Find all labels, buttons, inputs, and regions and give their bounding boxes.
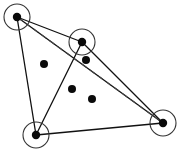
edge-a-c-solid [17,17,36,135]
diagram-canvas [0,0,185,161]
edge-c-d-solid [36,123,163,135]
vertex-node-A [4,4,30,30]
figure-container [0,0,185,161]
vertex-node-B [69,29,95,55]
edge-a-b-solid [17,17,82,42]
solid-edge-layer [17,17,163,135]
interior-point-p2 [82,56,90,64]
vertex-core-dot-C [32,131,40,139]
vertex-core-dot-B [78,38,86,46]
interior-point-p4 [88,95,96,103]
vertex-node-C [23,122,49,148]
interior-point-p3 [68,85,76,93]
vertex-core-dot-A [13,13,21,21]
vertex-core-dot-D [159,119,167,127]
interior-point-p1 [40,60,48,68]
edge-b-d-solid [82,42,163,123]
vertex-node-D [150,110,176,136]
interior-point-layer [40,56,96,103]
